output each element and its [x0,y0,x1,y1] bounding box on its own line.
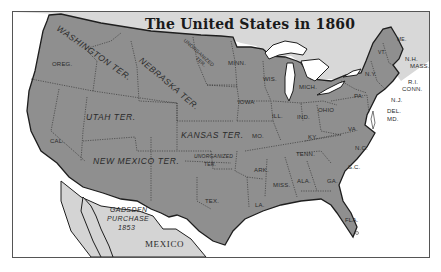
label-1853: 1853 [118,224,135,231]
label-new-jersey: N.J. [391,97,402,103]
label-purchase: PURCHASE [107,215,149,222]
label-maine: ME. [397,37,407,42]
label-california: CAL. [50,138,64,144]
map-title: The United States in 1860 [145,16,355,32]
label-unorganized-south-ter: TER. [204,162,216,167]
label-alabama: ALA. [297,178,311,184]
label-michigan: MICH. [299,84,317,90]
label-south-carolina: S.C. [348,164,360,170]
label-connecticut: CONN. [402,86,422,92]
label-virginia: VA. [348,126,358,132]
label-ohio: OHIO [318,107,334,113]
label-louisiana: LA. [255,202,265,208]
label-new-mexico-ter: NEW MEXICO TER. [93,157,179,166]
chesapeake-bay [371,111,375,129]
label-maryland: MD. [387,116,399,122]
label-iowa: IOWA [238,99,255,105]
label-massachusetts: MASS. [410,63,430,69]
label-oregon: OREG. [52,61,72,67]
label-delaware: DEL. [387,108,401,114]
label-georgia: GA. [327,178,338,184]
label-pennsylvania: PA. [354,93,364,99]
label-illinois: ILL. [272,113,283,119]
label-vermont: VT. [378,50,386,55]
label-new-hampshire: N.H. [405,56,418,62]
label-arkansas: ARK. [254,167,269,173]
label-mississippi: MISS. [273,182,290,188]
label-mexico: MEXICO [145,240,184,249]
label-florida: FLA. [345,217,358,223]
label-gadsden: GADSDEN [110,206,147,213]
label-missouri: MO. [252,133,264,139]
label-utah-ter: UTAH TER. [86,113,136,122]
label-minnesota: MINN. [228,60,246,66]
label-rhode-island: R.I. [408,79,418,85]
label-indiana: IND. [297,114,310,120]
label-tennessee: TENN. [296,151,315,157]
label-texas: TEX. [205,198,219,204]
label-unorganized-south: UNORGANIZED [194,154,233,159]
label-kansas-ter: KANSAS TER. [181,131,244,140]
label-wisconsin: WIS. [263,76,277,82]
label-north-carolina: N.C. [355,145,368,151]
label-new-york: N.Y. [365,71,377,77]
label-kentucky: KY. [308,134,318,140]
lake-okeechobee [356,232,359,235]
